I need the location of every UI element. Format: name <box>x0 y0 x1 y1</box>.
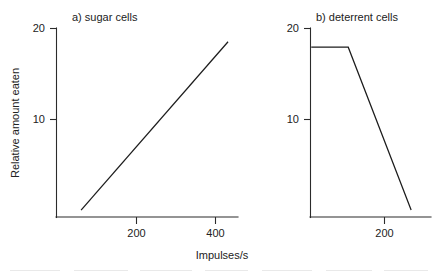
x-axis-title: Impulses/s <box>196 249 249 261</box>
panel-a-data-line <box>81 42 228 210</box>
chart-svg: a) sugar cells 20 10 200 400 b) deterren… <box>0 0 437 275</box>
panel-a-ytick-label-10: 10 <box>33 113 45 125</box>
panel-a-xtick-label-200: 200 <box>127 227 145 239</box>
panel-b-title: b) deterrent cells <box>316 11 398 23</box>
panel-b-ytick-label-20: 20 <box>287 22 299 34</box>
y-axis-title: Relative amount eaten <box>9 68 21 178</box>
panel-a-ytick-label-20: 20 <box>33 22 45 34</box>
panel-deterrent-cells: b) deterrent cells 20 10 200 <box>287 11 431 239</box>
panel-b-ytick-label-10: 10 <box>287 113 299 125</box>
figure-container: a) sugar cells 20 10 200 400 b) deterren… <box>0 0 437 275</box>
panel-a-xtick-label-400: 400 <box>206 227 224 239</box>
panel-b-xtick-label-200: 200 <box>375 227 393 239</box>
panel-sugar-cells: a) sugar cells 20 10 200 400 <box>33 11 238 239</box>
panel-a-title: a) sugar cells <box>72 11 138 23</box>
panel-b-data-line <box>311 47 411 210</box>
